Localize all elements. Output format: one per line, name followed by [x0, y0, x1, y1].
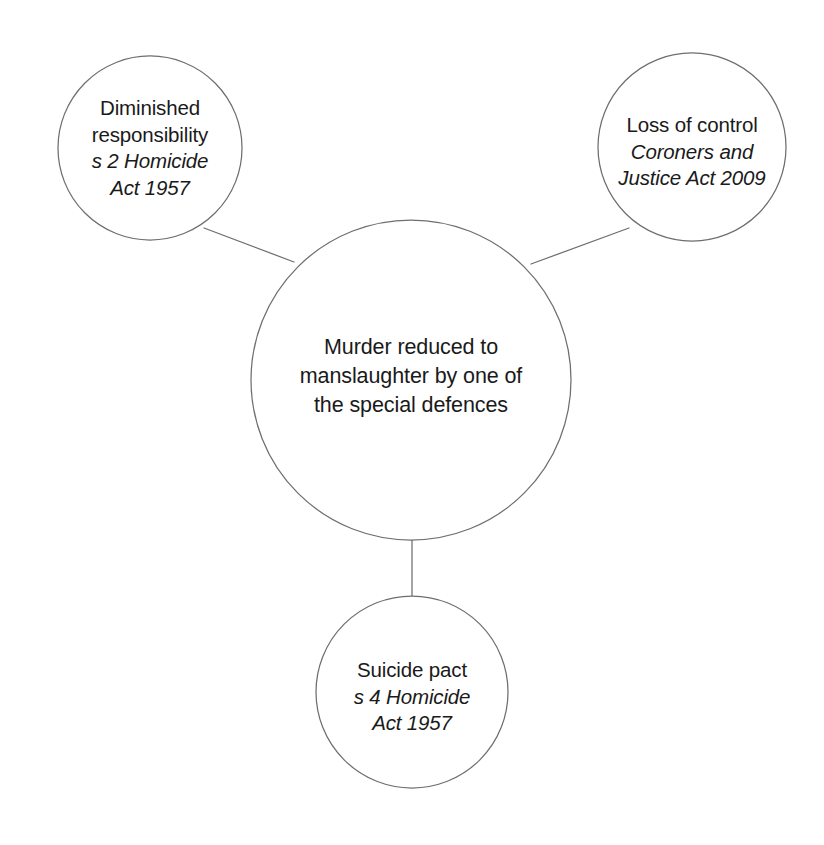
diagram-shapes-layer — [0, 0, 824, 845]
circle-suicide-pact[interactable] — [316, 596, 508, 788]
circle-diminished-responsibility[interactable] — [58, 56, 242, 240]
connector-loss-of-control — [531, 228, 629, 264]
circle-loss-of-control[interactable] — [598, 53, 786, 241]
diagram-canvas: Diminished responsibility s 2 Homicide A… — [0, 0, 824, 845]
connector-diminished-responsibility — [204, 228, 294, 262]
circle-central-murder-manslaughter[interactable] — [251, 220, 571, 540]
